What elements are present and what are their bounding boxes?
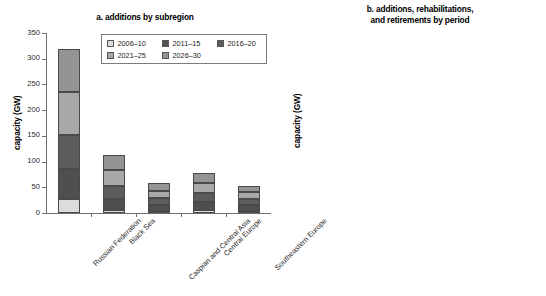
chart-b-title-line1: b. additions, rehabilitations, (310, 4, 530, 15)
legend-label: 2021–25 (118, 51, 146, 60)
chart-a-x-axis (46, 213, 271, 214)
bar-segment (148, 211, 170, 213)
y-tick (42, 187, 46, 188)
bar-segment (193, 210, 215, 213)
y-tick (42, 33, 46, 34)
legend-row: 2006–10 2011–15 2016–20 (107, 39, 261, 48)
legend-swatch-icon (217, 40, 224, 47)
y-tick-label: 50 (6, 183, 40, 191)
chart-a-title: a. additions by subregion (40, 12, 250, 23)
bar-segment (103, 186, 125, 199)
y-tick (42, 162, 46, 163)
x-tick (91, 213, 92, 217)
chart-a-y-axis-label: capacity (GW) (12, 95, 22, 150)
y-tick-label: 250 (6, 80, 40, 88)
y-tick-label: 300 (6, 54, 40, 62)
bar-segment (103, 210, 125, 213)
bar-segment (193, 202, 215, 210)
bar-segment (58, 92, 80, 135)
chart-b-y-axis-label: capacity (GW) (292, 93, 302, 148)
bar-segment (193, 193, 215, 202)
bar-segment (238, 205, 260, 211)
bar-segment (148, 198, 170, 205)
legend-item-2026-30: 2026–30 (162, 51, 217, 60)
legend-swatch-icon (107, 52, 114, 59)
bar-segment (58, 199, 80, 213)
chart-b-title-line2: and retirements by period (310, 15, 530, 26)
y-tick (42, 136, 46, 137)
bar-segment (238, 186, 260, 193)
legend-item-2011-15: 2011–15 (162, 39, 217, 48)
bar-segment (148, 191, 170, 198)
chart-a-legend: 2006–10 2011–15 2016–20 2021–25 2026–30 (101, 34, 267, 64)
y-tick-label: 100 (6, 157, 40, 165)
y-tick-label: 350 (6, 29, 40, 37)
x-tick (181, 213, 182, 217)
y-tick-label: 150 (6, 131, 40, 139)
legend-item-2016-20: 2016–20 (217, 39, 256, 48)
legend-item-2021-25: 2021–25 (107, 51, 162, 60)
x-tick (226, 213, 227, 217)
y-tick-label: 200 (6, 106, 40, 114)
bar-segment (58, 49, 80, 92)
legend-row: 2021–25 2026–30 (107, 51, 261, 60)
chart-panel-additions-rehab-retirements: b. additions, rehabilitations, and retir… (282, 0, 546, 296)
chart-panel-additions-by-subregion: a. additions by subregion capacity (GW) … (0, 0, 282, 296)
bar-segment (238, 199, 260, 205)
legend-swatch-icon (162, 40, 169, 47)
bar-segment (148, 205, 170, 211)
bar-segment (58, 169, 80, 198)
legend-item-2006-10: 2006–10 (107, 39, 162, 48)
chart-a-y-axis (46, 33, 47, 213)
bar-segment (58, 135, 80, 169)
legend-swatch-icon (162, 52, 169, 59)
y-tick-label: 0 (6, 209, 40, 217)
y-tick (42, 59, 46, 60)
bar-segment (193, 183, 215, 193)
legend-label: 2011–15 (173, 39, 201, 48)
bar-segment (238, 211, 260, 213)
legend-label: 2006–10 (118, 39, 146, 48)
legend-label: 2026–30 (173, 51, 201, 60)
bar-segment (193, 173, 215, 183)
bar-segment (103, 170, 125, 185)
y-tick (42, 110, 46, 111)
bar-segment (103, 199, 125, 210)
y-tick (42, 213, 46, 214)
chart-b-title: b. additions, rehabilitations, and retir… (310, 4, 530, 25)
bar-segment (238, 192, 260, 199)
x-category-label: Caspian and Central Asia (187, 217, 252, 282)
legend-swatch-icon (107, 40, 114, 47)
legend-label: 2016–20 (228, 39, 256, 48)
y-tick (42, 84, 46, 85)
bar-segment (148, 183, 170, 191)
bar-segment (103, 155, 125, 170)
